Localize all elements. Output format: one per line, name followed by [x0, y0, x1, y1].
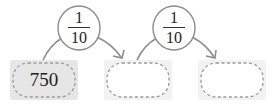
fraction-bar — [68, 27, 90, 28]
box-3[interactable] — [198, 60, 266, 100]
denominator: 10 — [71, 29, 87, 46]
numerator: 1 — [170, 9, 178, 26]
numerator: 1 — [75, 9, 83, 26]
operator-fraction-2: 1 10 — [159, 9, 189, 46]
box-2[interactable] — [104, 60, 172, 100]
fraction-bar — [163, 27, 185, 28]
operator-fraction-1: 1 10 — [64, 9, 94, 46]
denominator: 10 — [166, 29, 182, 46]
box-1-value: 750 — [10, 69, 78, 91]
